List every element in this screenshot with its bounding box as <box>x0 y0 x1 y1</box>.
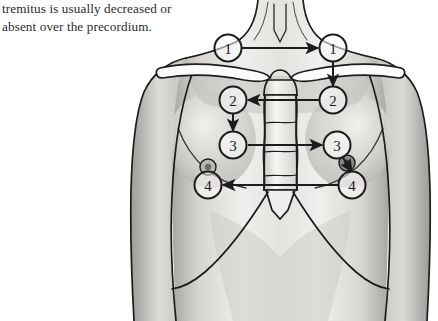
sternal-segment-line-2 <box>264 151 297 152</box>
marker-2-left-label: 2 <box>229 93 237 109</box>
marker-1-right: 1 <box>320 35 347 62</box>
manubrium <box>264 80 297 95</box>
marker-4-right: 4 <box>339 172 366 199</box>
marker-2-left: 2 <box>220 87 247 114</box>
marker-4-right-label: 4 <box>348 178 356 194</box>
sternal-segment-line-3 <box>264 175 297 176</box>
marker-1-right-label: 1 <box>329 41 337 57</box>
marker-3-right: 3 <box>324 132 351 159</box>
marker-3-left-label: 3 <box>229 138 237 154</box>
marker-1-left-label: 1 <box>224 41 232 57</box>
figure-page: tremitus is usually decreased or absent … <box>0 0 438 321</box>
marker-3-left: 3 <box>220 132 247 159</box>
marker-1-left: 1 <box>215 35 242 62</box>
marker-2-right: 2 <box>320 87 347 114</box>
marker-4-left-label: 4 <box>204 178 212 194</box>
sternal-segment-line-1 <box>265 122 296 123</box>
marker-4-left: 4 <box>195 172 222 199</box>
left-nipple <box>205 164 211 170</box>
marker-3-right-label: 3 <box>333 138 341 154</box>
sternum-right-edge <box>296 95 298 190</box>
marker-2-right-label: 2 <box>329 93 337 109</box>
chest-anatomy-illustration: 1 1 2 2 3 3 <box>0 0 438 321</box>
